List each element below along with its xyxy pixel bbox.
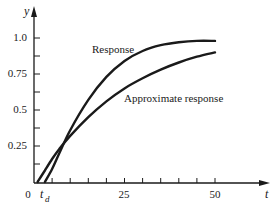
x-axis-ticks	[52, 178, 215, 183]
y-axis-arrow-icon	[31, 6, 37, 17]
response-label: Response	[92, 43, 134, 55]
x-tick-label-50: 50	[210, 188, 222, 200]
y-tick-label-0-25: 0.25	[8, 139, 28, 151]
svg-text:t: t	[40, 187, 44, 201]
response-curve	[45, 41, 215, 182]
y-axis-ticks	[34, 38, 40, 164]
y-tick-label-0-5: 0.5	[13, 103, 27, 115]
origin-label: 0	[25, 188, 31, 200]
td-label: t d	[40, 187, 50, 204]
y-axis	[31, 6, 37, 183]
x-axis	[34, 180, 270, 186]
x-axis-label: t	[265, 187, 269, 201]
x-tick-label-25: 25	[119, 188, 131, 200]
x-axis-arrow-icon	[259, 180, 270, 186]
y-axis-label: y	[23, 4, 30, 18]
y-tick-label-1-0: 1.0	[13, 31, 27, 43]
approximate-response-curve	[38, 52, 215, 182]
y-tick-label-0-75: 0.75	[8, 67, 28, 79]
approximate-response-label: Approximate response	[124, 92, 223, 104]
svg-text:d: d	[45, 194, 50, 204]
response-chart: 1.0 0.75 0.5 0.25 0 25 50 t d y t Respon…	[0, 0, 274, 210]
